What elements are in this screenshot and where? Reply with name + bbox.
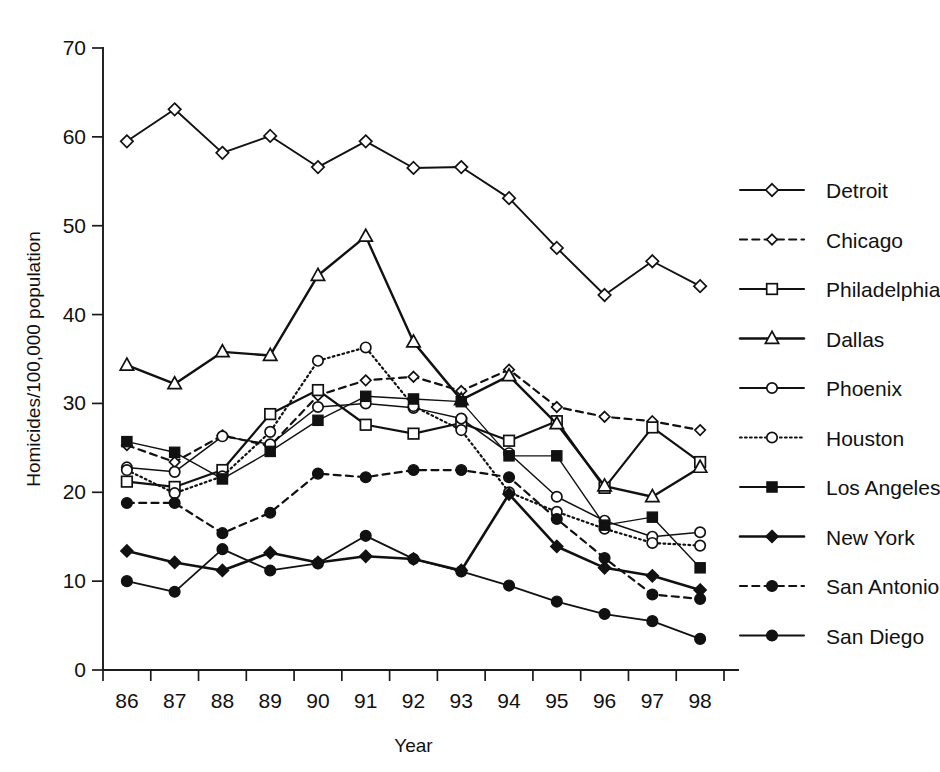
data-point	[313, 402, 323, 412]
data-point	[122, 465, 132, 475]
legend-marker-sample	[767, 432, 777, 442]
data-point	[361, 391, 371, 401]
x-axis-tick-label: 96	[593, 689, 616, 712]
data-point	[647, 616, 658, 627]
x-axis-tick-label: 95	[545, 689, 568, 712]
x-axis-tick-label: 86	[115, 689, 138, 712]
x-axis-tick-label: 94	[497, 689, 521, 712]
legend-item-san-antonio[interactable]: San Antonio	[740, 575, 939, 598]
plot-area: 0102030405060708687888990919293949596979…	[23, 36, 940, 756]
legend-label: San Antonio	[826, 575, 939, 598]
data-point	[313, 356, 323, 366]
series-line	[127, 536, 700, 639]
data-point	[551, 596, 562, 607]
legend-item-dallas[interactable]: Dallas	[740, 328, 884, 351]
legend-item-detroit[interactable]: Detroit	[740, 179, 888, 202]
data-point	[504, 451, 514, 461]
data-point	[408, 465, 419, 476]
data-point	[504, 435, 515, 446]
data-point	[313, 415, 323, 425]
legend-label: New York	[826, 526, 915, 549]
data-point	[408, 554, 419, 565]
data-point	[647, 589, 658, 600]
legend-label: Dallas	[826, 328, 884, 351]
data-point	[313, 468, 324, 479]
data-point	[599, 520, 609, 530]
data-point	[407, 162, 419, 174]
data-point	[120, 358, 133, 370]
chart-axes	[103, 48, 738, 670]
data-point	[360, 550, 372, 562]
data-point	[313, 385, 324, 396]
y-axis-tick-label: 20	[63, 480, 86, 503]
data-point	[312, 161, 324, 173]
x-axis-tick-label: 92	[402, 689, 425, 712]
x-axis-tick-label: 91	[354, 689, 377, 712]
x-axis-tick-label: 87	[163, 689, 186, 712]
data-point	[122, 476, 133, 487]
data-point	[264, 130, 276, 142]
legend-item-philadelphia[interactable]: Philadelphia	[740, 278, 940, 301]
data-point	[695, 425, 705, 435]
data-point	[361, 342, 371, 352]
data-point	[216, 345, 229, 357]
data-point	[361, 375, 371, 385]
data-point	[121, 576, 132, 587]
data-point	[360, 530, 371, 541]
data-point	[599, 553, 610, 564]
y-axis-tick-label: 0	[74, 658, 86, 681]
series-san-antonio	[121, 465, 705, 605]
data-point	[217, 528, 228, 539]
data-point	[408, 394, 418, 404]
legend-label: Houston	[826, 427, 904, 450]
x-axis-tick-label: 90	[306, 689, 329, 712]
data-point	[265, 427, 275, 437]
legend-item-phoenix[interactable]: Phoenix	[740, 377, 902, 400]
data-point	[646, 570, 658, 582]
data-point	[695, 540, 705, 550]
data-point	[456, 465, 467, 476]
data-point	[360, 419, 371, 430]
legend-marker-sample	[767, 234, 777, 244]
data-point	[217, 544, 228, 555]
data-point	[456, 566, 467, 577]
data-point	[694, 280, 706, 292]
data-point	[360, 472, 371, 483]
data-point	[551, 514, 562, 525]
data-point	[265, 409, 276, 420]
data-point	[169, 457, 179, 467]
data-point	[407, 335, 420, 347]
data-point	[170, 447, 180, 457]
data-point	[647, 422, 658, 433]
legend-marker-sample	[766, 184, 778, 196]
data-point	[456, 397, 466, 407]
data-point	[169, 467, 179, 477]
legend-marker-sample	[767, 630, 778, 641]
legend-item-houston[interactable]: Houston	[740, 427, 904, 450]
data-point	[504, 580, 515, 591]
legend-item-san-diego[interactable]: San Diego	[740, 625, 924, 648]
series-san-diego	[121, 530, 705, 644]
data-point	[408, 428, 419, 439]
data-point	[646, 255, 658, 267]
x-axis-tick-label: 89	[259, 689, 282, 712]
data-point	[216, 564, 228, 576]
legend-item-chicago[interactable]: Chicago	[740, 229, 903, 252]
legend-label: Philadelphia	[826, 278, 940, 301]
legend-marker-sample	[767, 383, 777, 393]
data-point	[695, 563, 705, 573]
series-line	[127, 370, 700, 462]
y-axis-title: Homicides/100,000 population	[23, 231, 44, 487]
y-axis-tick-label: 40	[63, 303, 86, 326]
y-axis-tick-label: 70	[63, 36, 86, 59]
data-point	[695, 527, 705, 537]
data-point	[169, 586, 180, 597]
x-axis-tick-label: 88	[211, 689, 234, 712]
y-axis-tick-label: 30	[63, 391, 86, 414]
data-point	[552, 451, 562, 461]
series-new-york	[121, 488, 707, 596]
legend-item-los-angeles[interactable]: Los Angeles	[740, 476, 940, 499]
legend-item-new-york[interactable]: New York	[740, 526, 915, 549]
y-axis-tick-label: 10	[63, 569, 86, 592]
x-axis-tick-label: 97	[641, 689, 664, 712]
